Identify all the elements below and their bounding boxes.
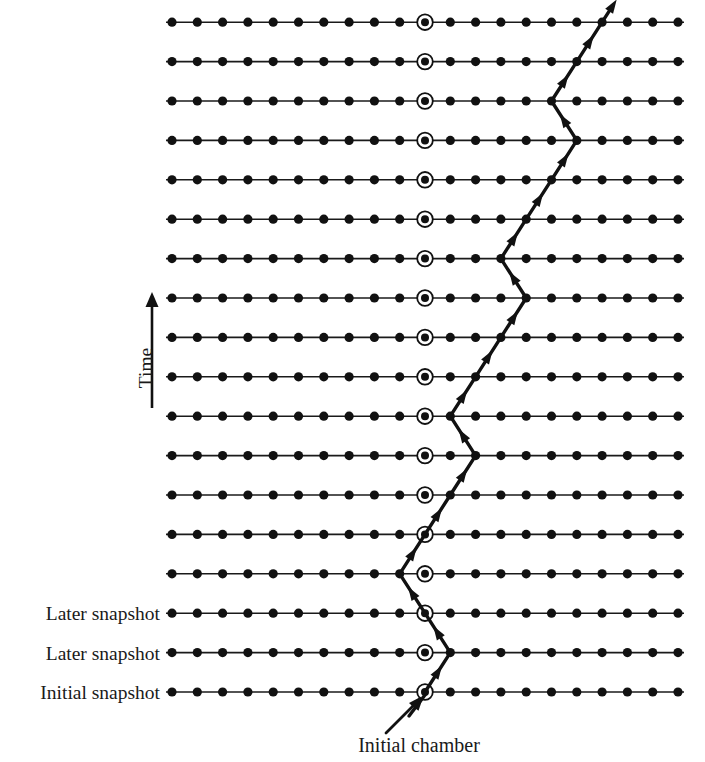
chamber-node (269, 648, 278, 657)
chamber-node (269, 412, 278, 421)
chamber-node (623, 96, 632, 105)
chamber-node (572, 648, 581, 657)
chamber-node (446, 530, 455, 539)
chamber-node (496, 96, 505, 105)
chamber-node (218, 215, 227, 224)
chamber-node (673, 530, 682, 539)
chamber-node (395, 333, 404, 342)
chamber-node (345, 18, 354, 27)
chamber-node (370, 451, 379, 460)
chamber-node (522, 687, 531, 696)
chamber-node (218, 687, 227, 696)
chamber-node (167, 96, 176, 105)
chamber-node (446, 687, 455, 696)
chamber-node (294, 451, 303, 460)
chamber-node (572, 254, 581, 263)
time-axis: Time (135, 292, 159, 408)
chamber-node (623, 372, 632, 381)
chamber-node (345, 648, 354, 657)
chamber-node (193, 648, 202, 657)
chamber-node (345, 569, 354, 578)
row-label-1: Later snapshot (46, 643, 161, 664)
chamber-node (648, 215, 657, 224)
chamber-node (572, 293, 581, 302)
chamber-node (572, 412, 581, 421)
chamber-node (345, 412, 354, 421)
chamber-node (269, 609, 278, 618)
chamber-node (218, 57, 227, 66)
chamber-node (522, 609, 531, 618)
chamber-node (648, 96, 657, 105)
chamber-node (269, 293, 278, 302)
chamber-node (673, 451, 682, 460)
chamber-node (243, 648, 252, 657)
chamber-node (294, 136, 303, 145)
chamber-node (572, 175, 581, 184)
initial-chamber-node (421, 294, 429, 302)
row-label-2: Later snapshot (46, 603, 161, 624)
chamber-node (598, 57, 607, 66)
chamber-node (547, 451, 556, 460)
chamber-node (269, 333, 278, 342)
chamber-node (572, 530, 581, 539)
chamber-node (167, 333, 176, 342)
chamber-node (269, 254, 278, 263)
chamber-node (294, 254, 303, 263)
initial-chamber-node (421, 333, 429, 341)
chamber-node (471, 293, 480, 302)
chamber-node (471, 490, 480, 499)
chamber-node (598, 569, 607, 578)
chamber-node (673, 175, 682, 184)
chamber-node (572, 215, 581, 224)
chamber-node (572, 687, 581, 696)
chamber-node (547, 293, 556, 302)
initial-chamber-node (421, 58, 429, 66)
lattice-row (166, 290, 684, 306)
chamber-node (370, 254, 379, 263)
chamber-node (446, 254, 455, 263)
chamber-node (471, 333, 480, 342)
chamber-node (623, 569, 632, 578)
chamber-node (496, 293, 505, 302)
chamber-node (193, 451, 202, 460)
chamber-node (673, 569, 682, 578)
chamber-node (193, 57, 202, 66)
chamber-node (522, 412, 531, 421)
chamber-node (547, 254, 556, 263)
chamber-node (167, 57, 176, 66)
chamber-node (446, 569, 455, 578)
chamber-node (294, 293, 303, 302)
chamber-node (471, 18, 480, 27)
chamber-node (648, 333, 657, 342)
chamber-node (269, 490, 278, 499)
chamber-node (218, 490, 227, 499)
chamber-node (496, 412, 505, 421)
chamber-node (269, 57, 278, 66)
chamber-node (319, 293, 328, 302)
chamber-node (193, 609, 202, 618)
chamber-node (269, 215, 278, 224)
chamber-node (269, 136, 278, 145)
chamber-node (243, 609, 252, 618)
chamber-node (167, 451, 176, 460)
chamber-node (572, 490, 581, 499)
chamber-node (522, 569, 531, 578)
chamber-node (370, 215, 379, 224)
chamber-node (395, 372, 404, 381)
chamber-node (395, 412, 404, 421)
chamber-node (598, 333, 607, 342)
chamber-node (319, 490, 328, 499)
chamber-node (446, 96, 455, 105)
chamber-node (623, 18, 632, 27)
chamber-node (623, 136, 632, 145)
chamber-node (446, 18, 455, 27)
chamber-node (218, 136, 227, 145)
chamber-node (648, 293, 657, 302)
lattice-row (166, 330, 684, 346)
chamber-node (294, 57, 303, 66)
chamber-node (395, 57, 404, 66)
chamber-node (598, 490, 607, 499)
chamber-node (395, 609, 404, 618)
chamber-node (572, 609, 581, 618)
chamber-node (218, 254, 227, 263)
